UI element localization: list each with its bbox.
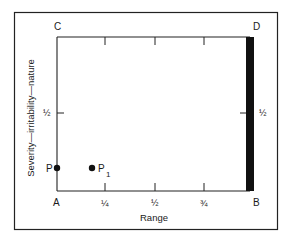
diagram: C D A B ¼ ½ ¾ ½ ½ Range Severity—irritab… — [0, 0, 286, 242]
right-tick-label-half: ½ — [259, 108, 267, 118]
point-p1-subscript: 1 — [106, 170, 111, 179]
black-bar-bd — [246, 37, 254, 191]
x-axis-title: Range — [140, 212, 168, 223]
y-tick-label-half: ½ — [43, 108, 51, 118]
point-p-label: P — [46, 163, 53, 174]
point-p1-label: P — [98, 163, 105, 174]
corner-label-b: B — [253, 197, 260, 208]
y-axis-title: Severity—irritability—nature — [25, 59, 36, 177]
x-tick-label-three-quarter: ¾ — [200, 198, 208, 208]
x-tick-label-half: ½ — [151, 198, 159, 208]
point-p — [54, 165, 60, 171]
corner-label-d: D — [253, 21, 260, 32]
point-p1 — [89, 165, 95, 171]
corner-label-a: A — [53, 197, 60, 208]
x-tick-label-quarter: ¼ — [101, 198, 109, 208]
corner-label-c: C — [54, 21, 61, 32]
